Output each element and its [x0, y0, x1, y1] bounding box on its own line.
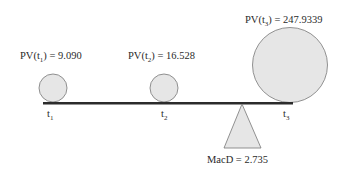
time-label-t2: t2: [161, 108, 167, 122]
pv-label-t1: PV(t1) = 9.090: [20, 50, 82, 64]
time-label-t3: t3: [283, 108, 289, 122]
weight-circle-t1: [39, 74, 67, 102]
macd-label: MacD = 2.735: [207, 154, 268, 165]
fulcrum-triangle: [224, 104, 261, 148]
weight-circle-t2: [150, 74, 178, 102]
pv-label-t2: PV(t2) = 16.528: [128, 50, 195, 64]
time-label-t1: t1: [47, 108, 53, 122]
pv-label-t3: PV(t3) = 247.9339: [245, 14, 322, 28]
beam: [43, 102, 293, 105]
weight-circle-t3: [253, 28, 328, 103]
